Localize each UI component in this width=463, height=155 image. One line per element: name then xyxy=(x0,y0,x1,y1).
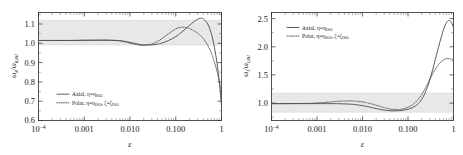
left-y-ticklabel-1: 0.7 xyxy=(25,97,35,106)
left-y-ticklabels: 0.6 0.7 0.8 0.9 1.0 1.1 xyxy=(25,20,35,126)
right-x-ticklabel-3: 0.100 xyxy=(399,125,418,134)
svg-text:ωR/ωR,BH: ωR/ωR,BH xyxy=(10,53,20,78)
right-yaxis-label: ωI/ωI,BH xyxy=(242,54,252,76)
chart-panel-left: 0.6 0.7 0.8 0.9 1.0 1.1 10−4 0.001 0.010… xyxy=(0,0,231,155)
svg-text:ωI/ωI,BH: ωI/ωI,BH xyxy=(242,54,252,76)
right-shaded-band xyxy=(272,93,454,112)
left-shaded-band xyxy=(39,20,222,45)
left-plot-svg: 0.6 0.7 0.8 0.9 1.0 1.1 10−4 0.001 0.010… xyxy=(0,0,231,155)
right-xaxis-label: ε xyxy=(361,139,365,149)
left-legend-label-axial: Axial, η=ηISO xyxy=(72,91,102,98)
right-plot-svg: 1.0 1.5 2.0 2.5 10−4 0.001 0.010 0.100 1… xyxy=(232,0,463,155)
left-xaxis-label: ε xyxy=(128,139,132,149)
left-legend: Axial, η=ηISO Polar, η=ηISO, ζ=ζISO xyxy=(57,91,119,107)
left-x-ticklabels: 10−4 0.001 0.010 0.100 1 xyxy=(31,124,223,134)
right-y-ticklabel-3: 2.5 xyxy=(258,15,268,24)
right-x-ticklabel-2: 0.010 xyxy=(353,125,372,134)
right-x-ticklabel-0: 10−4 xyxy=(264,124,279,134)
left-x-ticklabel-0: 10−4 xyxy=(31,124,46,134)
left-x-ticklabel-4: 1 xyxy=(219,125,223,134)
right-x-ticklabel-4: 1 xyxy=(451,125,455,134)
right-legend-label-axial: Axial, η=ηISO xyxy=(302,25,332,32)
right-y-ticklabel-2: 2.0 xyxy=(258,43,268,52)
left-x-ticklabel-2: 0.010 xyxy=(121,125,140,134)
left-x-ticklabel-1: 0.001 xyxy=(75,125,94,134)
right-legend-label-polar: Polar, η=ηISO, ζ=ζISO xyxy=(302,33,349,40)
left-y-ticklabel-5: 1.1 xyxy=(25,20,35,29)
right-x-ticklabels: 10−4 0.001 0.010 0.100 1 xyxy=(264,124,455,134)
left-y-ticklabel-2: 0.8 xyxy=(25,78,35,87)
left-y-ticklabel-3: 0.9 xyxy=(25,59,35,68)
right-y-ticklabel-1: 1.5 xyxy=(258,71,268,80)
right-y-ticklabels: 1.0 1.5 2.0 2.5 xyxy=(258,15,268,109)
right-y-ticklabel-0: 1.0 xyxy=(258,99,268,108)
left-x-ticklabel-3: 0.100 xyxy=(166,125,185,134)
left-y-ticklabel-4: 1.0 xyxy=(25,39,35,48)
right-x-ticklabel-1: 0.001 xyxy=(308,125,327,134)
left-yaxis-label: ωR/ωR,BH xyxy=(10,53,20,78)
chart-panel-right: 1.0 1.5 2.0 2.5 10−4 0.001 0.010 0.100 1… xyxy=(232,0,463,155)
left-legend-label-polar: Polar, η=ηISO, ζ=ζISO xyxy=(72,100,119,107)
right-legend: Axial, η=ηISO Polar, η=ηISO, ζ=ζISO xyxy=(287,25,349,41)
figure-root: 0.6 0.7 0.8 0.9 1.0 1.1 10−4 0.001 0.010… xyxy=(0,0,463,155)
